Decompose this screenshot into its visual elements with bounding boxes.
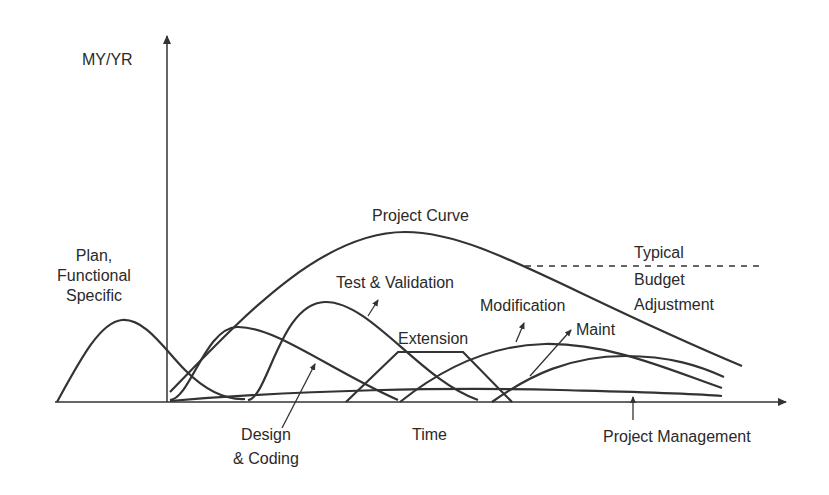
modification-label: Modification (480, 296, 565, 316)
x-axis-label: Time (412, 425, 447, 445)
design-label-line1: Design (226, 425, 306, 445)
y-axis-label: MY/YR (82, 50, 133, 70)
extension-curve (346, 352, 512, 402)
plan-label-line3: Specific (42, 286, 146, 306)
modification-arrow (516, 323, 524, 342)
design-label-line2: & Coding (226, 449, 306, 469)
test-validation-arrow (368, 300, 378, 316)
plan-label-line2: Functional (42, 266, 146, 286)
test-validation-label: Test & Validation (336, 273, 454, 293)
project-curve-label: Project Curve (372, 206, 469, 226)
budget-label-line3: Adjustment (634, 295, 714, 315)
plan-curve (57, 320, 245, 402)
maint-curve (492, 356, 724, 402)
budget-label-line1: Typical (634, 243, 684, 263)
maint-label: Maint (576, 320, 615, 340)
budget-label-line2: Budget (634, 270, 685, 290)
design-coding-arrow (282, 364, 315, 428)
plan-label-line1: Plan, (42, 246, 146, 266)
project-management-label: Project Management (603, 427, 751, 447)
project-management-curve (170, 389, 722, 401)
extension-label: Extension (398, 329, 468, 349)
